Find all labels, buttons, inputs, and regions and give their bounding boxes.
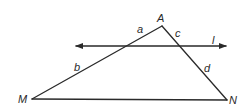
segment-label-b: b: [74, 61, 80, 73]
line-label-l: l: [212, 34, 215, 46]
vertex-label-n: N: [229, 94, 237, 106]
vertex-label-a: A: [156, 12, 164, 24]
side-an: [162, 26, 227, 100]
segment-label-d: d: [204, 62, 211, 74]
side-am: [32, 26, 162, 99]
segment-label-a: a: [137, 23, 143, 35]
segment-label-c: c: [175, 27, 181, 39]
triangle-diagram: A M N a b c d l: [0, 0, 249, 111]
side-mn: [32, 99, 227, 100]
vertex-label-m: M: [18, 93, 28, 105]
